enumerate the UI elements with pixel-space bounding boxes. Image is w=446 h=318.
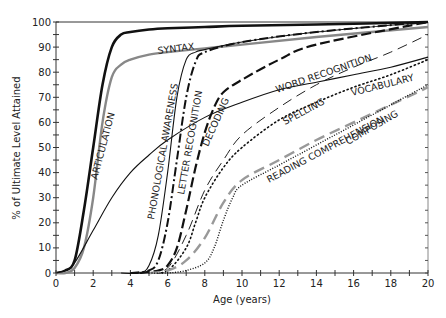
y-axis-title: % of Ultimate Level Attained bbox=[11, 76, 22, 219]
x-tick-label: 6 bbox=[164, 278, 170, 289]
x-tick-label: 12 bbox=[273, 278, 286, 289]
x-tick-label: 10 bbox=[236, 278, 249, 289]
label-spelling: SPELLING bbox=[281, 96, 326, 127]
y-tick-label: 70 bbox=[38, 92, 51, 103]
x-axis-title: Age (years) bbox=[213, 294, 271, 305]
x-tick-label: 0 bbox=[53, 278, 59, 289]
label-composing: COMPOSING bbox=[344, 108, 400, 147]
y-tick-label: 60 bbox=[38, 117, 51, 128]
curve-syntax bbox=[56, 27, 428, 273]
x-tick-label: 16 bbox=[347, 278, 360, 289]
y-tick-label: 20 bbox=[38, 217, 51, 228]
x-tick-label: 18 bbox=[384, 278, 397, 289]
development-chart: 010203040506070809010002468101214161820 … bbox=[0, 0, 446, 318]
y-tick-label: 100 bbox=[32, 17, 51, 28]
x-tick-label: 14 bbox=[310, 278, 323, 289]
y-tick-label: 50 bbox=[38, 142, 51, 153]
x-tick-label: 4 bbox=[127, 278, 133, 289]
y-tick-label: 30 bbox=[38, 192, 51, 203]
curve-letter-recognition bbox=[130, 22, 428, 273]
x-tick-label: 2 bbox=[90, 278, 96, 289]
y-tick-label: 0 bbox=[45, 268, 51, 279]
label-phonological: PHONOLOGICAL AWARENESS bbox=[145, 82, 180, 220]
y-tick-label: 80 bbox=[38, 67, 51, 78]
y-tick-label: 40 bbox=[38, 167, 51, 178]
x-tick-label: 20 bbox=[422, 278, 435, 289]
y-tick-label: 90 bbox=[38, 42, 51, 53]
x-tick-label: 8 bbox=[202, 278, 208, 289]
label-syntax: SYNTAX bbox=[157, 40, 196, 55]
label-vocabulary: VOCABULARY bbox=[350, 72, 415, 98]
y-tick-label: 10 bbox=[38, 242, 51, 253]
